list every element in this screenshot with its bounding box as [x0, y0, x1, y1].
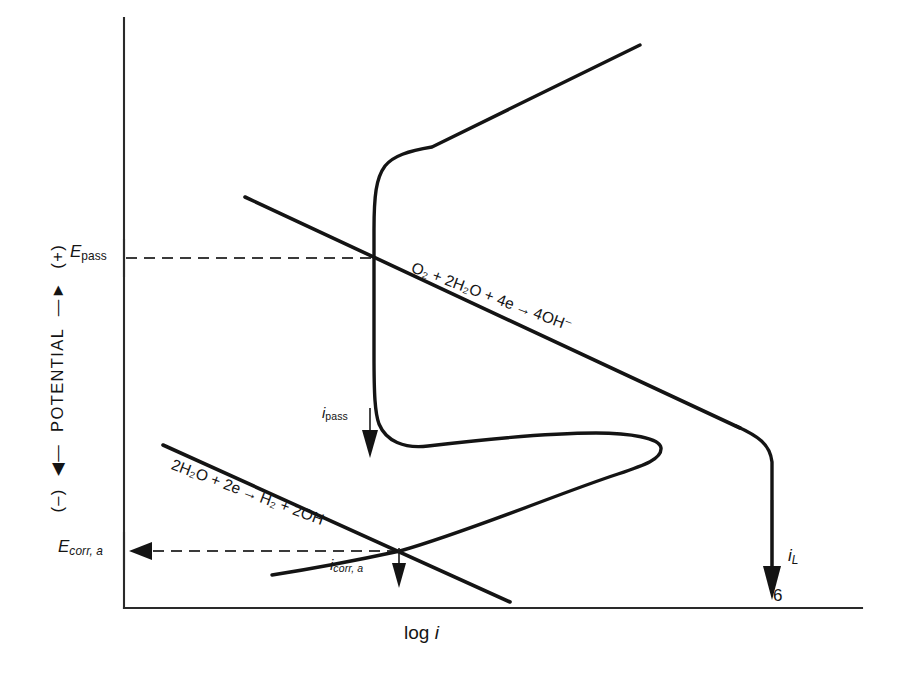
x-axis-label-text: log	[404, 622, 435, 643]
plot-canvas	[0, 0, 898, 679]
e-corr-label: Ecorr, a	[58, 538, 103, 558]
y-axis-up-arrow-glyph: —►	[48, 275, 66, 323]
x-axis-label: log i	[404, 623, 439, 642]
figure-number-label: 6	[773, 587, 782, 604]
e-pass-label: Epass	[70, 243, 107, 263]
i-pass-arrowhead	[362, 430, 378, 458]
y-axis-positive-sign: (+)	[48, 244, 66, 269]
e-pass-symbol: E	[70, 242, 81, 261]
e-pass-subscript: pass	[81, 249, 107, 263]
hydrogen-evolution-line	[163, 445, 510, 602]
i-limiting-label: iL	[788, 547, 799, 567]
i-limiting-subscript: L	[792, 553, 799, 567]
i-corr-subscript: corr, a	[333, 562, 363, 574]
x-axis-label-symbol: i	[435, 622, 439, 643]
y-axis-negative-sign: (–)	[48, 488, 66, 512]
e-corr-subscript: corr, a	[69, 544, 103, 558]
i-corr-arrowhead	[392, 563, 406, 588]
oxygen-limiting-current-branch	[736, 426, 772, 566]
y-axis-name: POTENTIAL	[48, 328, 66, 432]
polarization-diagram-figure: (–) ◀— POTENTIAL —► (+) log i Epass Ecor…	[0, 0, 898, 679]
anodic-polarization-curve	[272, 45, 661, 575]
i-pass-label: ipass	[322, 405, 348, 422]
oxygen-reduction-line	[245, 197, 740, 428]
y-axis-down-arrow-glyph: ◀—	[48, 438, 66, 482]
e-corr-symbol: E	[58, 537, 69, 556]
i-corr-label: icorr, a	[330, 557, 363, 574]
y-axis-label: (–) ◀— POTENTIAL —► (+)	[49, 213, 66, 543]
e-pass-construction	[124, 240, 372, 276]
i-pass-subscript: pass	[325, 410, 348, 422]
e-corr-arrowhead	[129, 542, 152, 560]
